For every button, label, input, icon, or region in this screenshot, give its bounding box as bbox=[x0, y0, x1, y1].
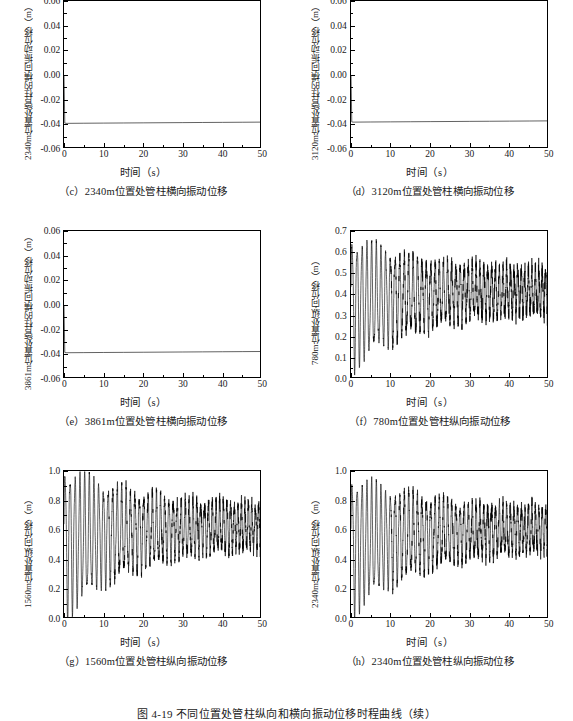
y-tick-label: 0.0 bbox=[48, 614, 60, 624]
y-tick-label: 0.04 bbox=[330, 21, 347, 31]
x-axis-label-e: 时间（s） bbox=[120, 394, 167, 409]
data-curve bbox=[351, 477, 548, 618]
y-tick-label: 0.2 bbox=[335, 332, 347, 342]
plot-frame-wrap-c: 01020304050 bbox=[63, 0, 263, 162]
x-tick-label: 40 bbox=[504, 149, 514, 159]
x-axis-ticks-g: 01020304050 bbox=[63, 618, 263, 632]
chart-panel-d: 3120m位置处管柱的横向振动位移（m） -0.06-0.04-0.020.00… bbox=[287, 0, 573, 230]
plot-area-c: 2340m位置处管柱的横向振动位移（m） -0.06-0.04-0.020.00… bbox=[23, 0, 263, 162]
plot-frame-wrap-e: 01020304050 bbox=[63, 230, 263, 392]
x-tick-label: 50 bbox=[258, 149, 268, 159]
chart-canvas-h bbox=[351, 471, 548, 618]
plot-frame-wrap-g: 01020304050 bbox=[63, 470, 263, 632]
y-tick-label: 0.5 bbox=[335, 268, 347, 278]
x-tick-label: 40 bbox=[218, 619, 228, 629]
x-tick-label: 0 bbox=[62, 379, 67, 389]
plot-frame-wrap-d: 01020304050 bbox=[350, 0, 550, 162]
x-axis-ticks-c: 01020304050 bbox=[63, 148, 263, 162]
plot-frame-g bbox=[63, 470, 261, 618]
y-tick-label: 0.3 bbox=[335, 311, 347, 321]
y-tick-label: -0.06 bbox=[327, 144, 347, 154]
x-tick-label: 50 bbox=[544, 149, 554, 159]
y-tick-label: 0.04 bbox=[44, 21, 61, 31]
y-tick-label: 0.2 bbox=[335, 584, 347, 594]
y-tick-label: 0.2 bbox=[48, 584, 60, 594]
x-tick-label: 10 bbox=[386, 379, 396, 389]
x-tick-label: 20 bbox=[139, 619, 149, 629]
data-curve bbox=[64, 76, 261, 124]
y-tick-label: 0.04 bbox=[44, 251, 61, 261]
x-tick-label: 30 bbox=[178, 379, 188, 389]
chart-panel-e: 3861m位置处管柱的横向振动位移（m） -0.06-0.04-0.020.00… bbox=[0, 230, 287, 470]
y-axis-ticks-d: -0.06-0.04-0.020.000.020.040.06 bbox=[320, 0, 350, 150]
chart-canvas-f bbox=[351, 231, 548, 378]
y-tick-label: -0.04 bbox=[40, 119, 60, 129]
plot-frame-d bbox=[350, 0, 548, 148]
plot-frame-wrap-h: 01020304050 bbox=[350, 470, 550, 632]
y-axis-label-c: 2340m位置处管柱的横向振动位移（m） bbox=[23, 0, 33, 162]
x-tick-label: 0 bbox=[348, 149, 353, 159]
y-axis-ticks-h: 0.00.20.40.60.81.0 bbox=[320, 470, 350, 620]
plot-frame-f bbox=[350, 230, 548, 378]
x-tick-label: 30 bbox=[465, 379, 475, 389]
x-tick-label: 20 bbox=[425, 379, 435, 389]
chart-panel-f: 780m位置处纵向位移（m） 0.00.10.20.30.40.50.60.7 … bbox=[287, 230, 573, 470]
plot-frame-h bbox=[350, 470, 548, 618]
chart-canvas-e bbox=[64, 231, 261, 378]
chart-canvas-d bbox=[351, 1, 548, 148]
y-tick-label: 0.7 bbox=[335, 226, 347, 236]
x-axis-label-g: 时间（s） bbox=[120, 634, 167, 649]
plot-frame-e bbox=[63, 230, 261, 378]
chart-canvas-c bbox=[64, 1, 261, 148]
y-tick-label: 0.06 bbox=[44, 0, 61, 6]
x-tick-label: 30 bbox=[465, 149, 475, 159]
x-tick-label: 40 bbox=[218, 379, 228, 389]
y-tick-label: -0.06 bbox=[40, 144, 60, 154]
subcaption-h: （h）2340m位置处管柱纵向振动位移 bbox=[346, 653, 514, 668]
plot-area-f: 780m位置处纵向位移（m） 0.00.10.20.30.40.50.60.7 … bbox=[310, 230, 550, 392]
y-axis-label-h: 2340m位置处纵向位移（m） bbox=[310, 470, 320, 632]
x-tick-label: 0 bbox=[348, 619, 353, 629]
x-tick-label: 50 bbox=[258, 379, 268, 389]
data-curve bbox=[64, 472, 261, 618]
y-axis-label-f: 780m位置处纵向位移（m） bbox=[310, 230, 320, 392]
y-axis-ticks-f: 0.00.10.20.30.40.50.60.7 bbox=[320, 230, 350, 380]
y-axis-ticks-e: -0.06-0.04-0.020.000.020.040.06 bbox=[33, 230, 63, 380]
chart-panel-h: 2340m位置处纵向位移（m） 0.00.20.40.60.81.0 01020… bbox=[287, 470, 573, 695]
y-tick-label: 0.8 bbox=[335, 496, 347, 506]
chart-canvas-g bbox=[64, 471, 261, 618]
data-curve bbox=[351, 75, 548, 122]
data-curve bbox=[351, 239, 548, 375]
y-tick-label: -0.02 bbox=[40, 325, 60, 335]
y-tick-label: 0.8 bbox=[48, 496, 60, 506]
figure-caption: 图 4-19 不同位置处管柱纵向和横向振动位移时程曲线（续） bbox=[0, 705, 573, 721]
y-tick-label: -0.02 bbox=[327, 95, 347, 105]
x-tick-label: 50 bbox=[258, 619, 268, 629]
x-axis-ticks-h: 01020304050 bbox=[350, 618, 550, 632]
subcaption-c: （c）2340m位置处管柱横向振动位移 bbox=[59, 183, 227, 198]
y-tick-label: 0.00 bbox=[330, 70, 347, 80]
y-tick-label: 0.1 bbox=[335, 353, 347, 363]
y-tick-label: 0.4 bbox=[335, 555, 347, 565]
plot-frame-c bbox=[63, 0, 261, 148]
y-tick-label: 0.0 bbox=[335, 374, 347, 384]
y-axis-label-e: 3861m位置处管柱的横向振动位移（m） bbox=[23, 230, 33, 392]
x-axis-label-d: 时间（s） bbox=[406, 164, 453, 179]
chart-panel-c: 2340m位置处管柱的横向振动位移（m） -0.06-0.04-0.020.00… bbox=[0, 0, 287, 230]
plot-frame-wrap-f: 01020304050 bbox=[350, 230, 550, 392]
subcaption-f: （f）780m位置处管柱纵向振动位移 bbox=[349, 413, 510, 428]
y-tick-label: 0.06 bbox=[44, 226, 61, 236]
x-tick-label: 40 bbox=[504, 619, 514, 629]
y-tick-label: 0.6 bbox=[48, 525, 60, 535]
x-axis-label-c: 时间（s） bbox=[120, 164, 167, 179]
x-tick-label: 10 bbox=[386, 619, 396, 629]
x-tick-label: 10 bbox=[386, 149, 396, 159]
x-tick-label: 40 bbox=[504, 379, 514, 389]
x-axis-ticks-d: 01020304050 bbox=[350, 148, 550, 162]
x-tick-label: 10 bbox=[99, 619, 109, 629]
y-tick-label: 1.0 bbox=[48, 466, 60, 476]
x-tick-label: 20 bbox=[139, 379, 149, 389]
subcaption-d: （d）3120m位置处管柱横向振动位移 bbox=[346, 183, 514, 198]
x-tick-label: 0 bbox=[62, 149, 67, 159]
x-axis-ticks-f: 01020304050 bbox=[350, 378, 550, 392]
